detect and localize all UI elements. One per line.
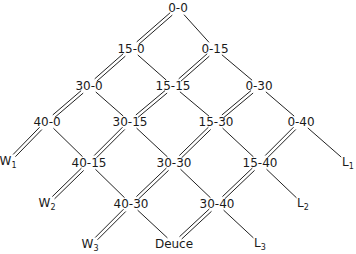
double-edge bbox=[95, 209, 123, 237]
score-node: 30-0 bbox=[75, 80, 102, 92]
terminal-node: L3 bbox=[254, 237, 266, 251]
double-edge bbox=[265, 127, 293, 155]
terminal-letter: W bbox=[39, 196, 51, 210]
double-edge bbox=[137, 13, 170, 42]
double-edge bbox=[55, 93, 83, 117]
score-node: 15-15 bbox=[156, 80, 191, 92]
single-edge bbox=[180, 92, 209, 116]
double-edge bbox=[52, 168, 81, 196]
terminal-node: W1 bbox=[0, 155, 16, 169]
double-edge bbox=[179, 209, 209, 237]
double-edge bbox=[136, 91, 165, 115]
terminal-subscript: 2 bbox=[50, 203, 55, 212]
double-edge bbox=[179, 54, 207, 79]
score-node: 15-40 bbox=[243, 157, 278, 169]
double-edge bbox=[55, 170, 84, 198]
score-node: 40-15 bbox=[72, 157, 107, 169]
terminal-letter: W bbox=[0, 154, 11, 168]
score-node: Deuce bbox=[155, 238, 193, 250]
terminal-letter: L bbox=[342, 155, 349, 169]
terminal-node: W3 bbox=[82, 238, 99, 252]
terminal-subscript: 3 bbox=[261, 243, 266, 252]
double-edge bbox=[267, 129, 295, 157]
double-edge bbox=[15, 130, 41, 157]
single-edge bbox=[267, 169, 297, 198]
tennis-game-score-tree: 0-015-00-1530-015-150-3040-030-1515-300-… bbox=[0, 0, 356, 254]
double-edge bbox=[97, 56, 125, 81]
terminal-node: L1 bbox=[342, 156, 354, 170]
double-edge bbox=[182, 211, 212, 239]
terminal-node: W2 bbox=[39, 197, 56, 211]
double-edge bbox=[139, 15, 172, 44]
terminal-subscript: 2 bbox=[304, 203, 309, 212]
score-node: 0-0 bbox=[168, 2, 188, 14]
double-edge bbox=[181, 56, 209, 81]
terminal-letter: W bbox=[82, 237, 94, 251]
double-edge bbox=[222, 168, 252, 197]
double-edge bbox=[97, 211, 125, 239]
score-node: 0-30 bbox=[245, 80, 272, 92]
terminal-node: L2 bbox=[297, 197, 309, 211]
score-node: 40-30 bbox=[114, 198, 149, 210]
double-edge bbox=[222, 91, 251, 115]
score-node: 30-30 bbox=[157, 157, 192, 169]
score-node: 15-0 bbox=[117, 43, 144, 55]
single-edge bbox=[266, 92, 294, 116]
score-node: 0-40 bbox=[287, 116, 314, 128]
score-node: 30-40 bbox=[200, 198, 235, 210]
single-edge bbox=[308, 128, 341, 157]
double-edge bbox=[13, 127, 39, 154]
terminal-subscript: 3 bbox=[93, 244, 98, 253]
double-edge bbox=[138, 93, 167, 117]
double-edge bbox=[53, 91, 81, 115]
score-node: 40-0 bbox=[33, 116, 60, 128]
single-edge bbox=[222, 55, 252, 80]
single-edge bbox=[184, 15, 209, 43]
double-edge bbox=[96, 129, 124, 157]
terminal-subscript: 1 bbox=[349, 162, 354, 171]
single-edge bbox=[138, 55, 166, 80]
double-edge bbox=[225, 170, 255, 199]
double-edge bbox=[95, 54, 123, 79]
score-node: 15-30 bbox=[199, 116, 234, 128]
single-edge bbox=[181, 169, 211, 198]
score-node: 0-15 bbox=[201, 43, 228, 55]
double-edge bbox=[139, 170, 169, 199]
double-edge bbox=[182, 129, 211, 157]
single-edge bbox=[138, 210, 168, 238]
double-edge bbox=[179, 127, 208, 155]
single-edge bbox=[223, 128, 254, 157]
single-edge bbox=[137, 128, 168, 157]
single-edge bbox=[53, 128, 82, 156]
double-edge bbox=[136, 168, 166, 197]
single-edge bbox=[224, 210, 254, 238]
terminal-letter: L bbox=[254, 236, 261, 250]
double-edge bbox=[224, 93, 253, 117]
score-node: 30-15 bbox=[113, 116, 148, 128]
single-edge bbox=[96, 92, 123, 116]
terminal-letter: L bbox=[297, 196, 304, 210]
single-edge bbox=[95, 169, 124, 197]
double-edge bbox=[94, 127, 122, 155]
terminal-subscript: 1 bbox=[11, 161, 16, 170]
